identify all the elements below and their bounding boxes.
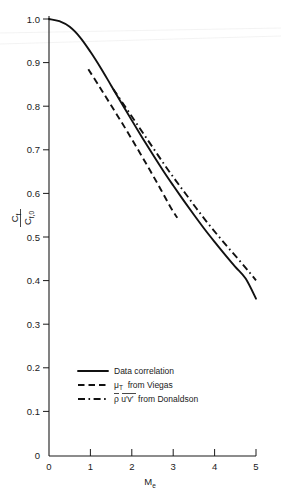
curve-data-correlation [49, 19, 256, 299]
x-tick-label: 3 [171, 461, 176, 472]
scan-artifact-line [0, 36, 281, 44]
svg-text:Cf: Cf [9, 213, 22, 222]
x-axis-ticks [90, 449, 256, 456]
x-tick-label: 5 [253, 461, 258, 472]
legend-label-mu-t-viegas: μT from Viegas [114, 380, 173, 391]
y-tick-label: 0.1 [27, 406, 40, 417]
y-axis-title: Cf Cf,0 [9, 209, 35, 227]
y-tick-label: 0 [35, 450, 40, 461]
chart-legend: Data correlation μT from Viegas ρ u′v′ f… [78, 366, 198, 404]
plot-curves [49, 19, 256, 299]
y-tick-label: 0.5 [27, 232, 40, 243]
y-tick-label: 0.2 [27, 362, 40, 373]
chart-svg: 1.0 0.9 0.8 0.7 0.6 0.5 0.4 0.3 0.2 0.1 … [0, 0, 281, 490]
legend-label-data-correlation: Data correlation [114, 366, 174, 376]
scan-artifact-line-2 [0, 28, 281, 33]
y-tick-label: 0.6 [27, 188, 40, 199]
y-axis-title-den-sub: f,0 [28, 211, 35, 219]
legend-symbol-rho-uv: ρ u′v′ [114, 394, 134, 404]
x-tick-label: 0 [46, 461, 51, 472]
y-tick-label: 0.7 [27, 144, 40, 155]
x-axis-title-sub: e [152, 482, 156, 489]
legend-text-viegas: from Viegas [128, 380, 173, 390]
curve-mu-t-viegas [88, 69, 177, 218]
y-axis-tick-labels: 1.0 0.9 0.8 0.7 0.6 0.5 0.4 0.3 0.2 0.1 … [27, 14, 40, 461]
y-axis-ticks [43, 19, 49, 411]
x-axis-title-main: M [144, 476, 152, 487]
x-axis-tick-labels: 0 1 2 3 4 5 [46, 461, 258, 472]
legend-label-rho-uv-donaldson: ρ u′v′ from Donaldson [114, 394, 198, 404]
y-tick-label: 0.9 [27, 57, 40, 68]
chart-figure: 1.0 0.9 0.8 0.7 0.6 0.5 0.4 0.3 0.2 0.1 … [0, 0, 281, 490]
y-tick-label: 0.8 [27, 101, 40, 112]
y-tick-label: 0.4 [27, 275, 40, 286]
svg-text:Me: Me [144, 476, 156, 489]
legend-text-donaldson: from Donaldson [138, 394, 198, 404]
x-tick-label: 2 [129, 461, 134, 472]
curve-rho-uv-donaldson [113, 89, 256, 280]
svg-text:Cf,0: Cf,0 [22, 211, 35, 225]
x-tick-label: 4 [212, 461, 217, 472]
y-tick-label: 0.3 [27, 319, 40, 330]
y-tick-label: 1.0 [27, 14, 40, 25]
x-tick-label: 1 [88, 461, 93, 472]
x-axis-title: Me [144, 476, 156, 489]
